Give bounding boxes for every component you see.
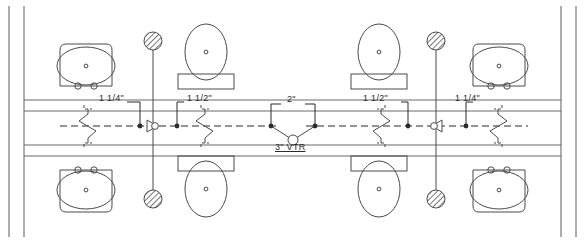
cleanout-symbol-upper-right [427,32,445,50]
drain-node-lav-right [464,124,469,129]
lavatory-drain-hole [497,188,501,192]
cleanout-lower-left [144,126,162,208]
water-closet-lower-left [178,156,234,217]
vent-stub-top-left-wc [201,105,209,109]
building-wall-lines [9,6,576,237]
wc-tank [178,74,234,89]
wye-hub-right [431,123,438,130]
cleanout-symbol-upper-left [144,32,162,50]
wc-bowl [358,161,400,217]
wc-bowl [185,24,227,80]
callout-wc-right-size: 1 1/2" [363,94,388,103]
lavatory-lower-right [470,167,528,212]
wc-drain-hole [204,50,208,54]
callout-vtr: 3" VTR [275,143,306,152]
lavatory-drain-hole [497,64,501,68]
drawing-svg [0,0,585,243]
wye-hub-left [152,123,159,130]
vent-stack-center [269,104,318,145]
lavatory-counter-outline [60,170,112,212]
lavatory-upper-right [470,44,528,89]
wc-tank [178,156,234,171]
lavatory-basin [470,47,528,85]
cleanout-upper-left [144,32,162,126]
cleanout-symbol-lower-left [144,190,162,208]
callout-stack-size: 2" [287,95,296,104]
wc-bowl [185,161,227,217]
plumbing-drawing-canvas: 1 1/4" 1 1/2" 2" 3" VTR 1 1/2" 1 1/4" [0,0,585,243]
water-closet-lower-right [351,156,407,217]
lavatory-basin [57,171,115,209]
wc-drain-hole [377,187,381,191]
wc-bowl [358,24,400,80]
vent-stub-top-right-lav [494,105,502,109]
cleanout-upper-right [427,32,445,126]
cleanout-symbol-lower-right [427,190,445,208]
stack-node-left [269,124,274,129]
vent-stub-top-left-lav [84,105,92,109]
lavatory-upper-left [57,44,115,89]
wc-tank [351,156,407,171]
water-closet-upper-right [351,24,407,89]
lavatory-basin [470,171,528,209]
drain-node-lav-left [138,124,143,129]
lavatory-counter-outline [473,170,525,212]
lavatory-drain-hole [84,188,88,192]
cleanout-lower-right [427,126,445,208]
stack-node-right [313,124,318,129]
lavatory-lower-left [57,167,115,212]
water-closet-upper-left [178,24,234,89]
wc-drain-hole [377,50,381,54]
drain-node-wc-right [406,124,411,129]
callout-lav-right-size: 1 1/4" [455,94,480,103]
vent-stub-top-right-wc [377,105,385,109]
wc-drain-hole [204,187,208,191]
callout-lav-left-size: 1 1/4" [99,94,124,103]
drain-node-wc-left [175,124,180,129]
lavatory-basin [57,47,115,85]
lavatory-counter-outline [60,44,112,86]
lavatory-drain-hole [84,64,88,68]
wc-tank [351,74,407,89]
callout-wc-left-size: 1 1/2" [187,94,212,103]
right-callout-leaders [401,102,473,126]
lavatory-counter-outline [473,44,525,86]
